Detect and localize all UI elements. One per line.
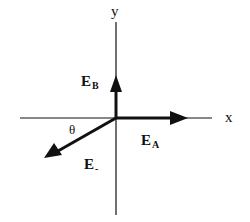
vector-eb-arrow bbox=[110, 75, 122, 118]
vector-ea-main: E bbox=[141, 132, 151, 148]
vector-eb-subscript: B bbox=[92, 80, 99, 91]
y-axis-label: y bbox=[111, 4, 119, 19]
vector-eminus-main: E bbox=[84, 156, 94, 172]
x-axis-label: x bbox=[225, 110, 233, 125]
vector-eb-main: E bbox=[81, 73, 91, 89]
vector-ea-label: EA bbox=[141, 133, 159, 150]
vector-eb-label: EB bbox=[81, 74, 99, 91]
diagram-graphics bbox=[0, 0, 250, 222]
vector-ea-subscript: A bbox=[152, 139, 159, 150]
angle-theta-label: θ bbox=[69, 123, 75, 136]
vector-eminus-arrow bbox=[44, 118, 116, 158]
vector-ea-arrow bbox=[116, 111, 188, 125]
vector-eminus-label: E- bbox=[84, 157, 98, 174]
vector-diagram: y x EB EA E- θ bbox=[0, 0, 250, 222]
vector-eminus-subscript: - bbox=[95, 163, 98, 174]
